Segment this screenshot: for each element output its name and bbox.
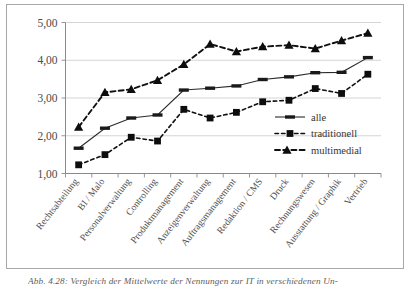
figure-frame: 1,002,003,004,005,00 RechtsabteilungBI /… [6,4,404,269]
data-point-marker [154,138,161,145]
legend-label-alle: alle [311,112,326,123]
legend-label-multimedial: multimedial [311,145,362,156]
y-tick-label: 1,00 [37,168,57,181]
y-tick-label: 5,00 [37,17,57,30]
data-point-marker [363,28,372,36]
y-tick-label: 2,00 [37,130,57,143]
chart-plot: 1,002,003,004,005,00 RechtsabteilungBI /… [7,5,405,270]
data-point-marker [364,71,371,78]
figure-caption: Abb. 4.28: Vergleich der Mittelwerte der… [28,276,406,287]
data-point-marker [75,161,82,168]
legend-label-traditionell: traditionell [311,128,357,139]
x-axis-tick-labels: RechtsabteilungBI / MaloPersonalverwaltu… [33,176,369,250]
data-point-marker [286,97,293,104]
data-point-marker [180,106,187,113]
figure-root: 1,002,003,004,005,00 RechtsabteilungBI /… [0,0,412,289]
data-point-marker [102,151,109,158]
x-tick-label: Druck [267,176,291,202]
data-point-marker [259,98,266,105]
data-point-marker [153,76,162,84]
data-point-marker [312,85,319,92]
y-axis-ticks [62,23,66,174]
x-tick-label: Rechtsabteilung [33,176,80,232]
data-point-marker [233,109,240,116]
x-tick-label: Vertrieb [342,176,370,207]
data-point-marker [206,39,215,47]
y-tick-label: 3,00 [37,92,57,105]
data-point-marker [338,90,345,97]
data-point-marker [128,134,135,141]
chart-legend: alletraditionellmultimedial [275,112,362,156]
y-axis-tick-labels: 1,002,003,004,005,00 [37,17,57,181]
data-point-marker [258,42,267,50]
data-point-marker [207,115,214,122]
legend-marker [287,130,294,137]
y-tick-label: 4,00 [37,54,57,67]
